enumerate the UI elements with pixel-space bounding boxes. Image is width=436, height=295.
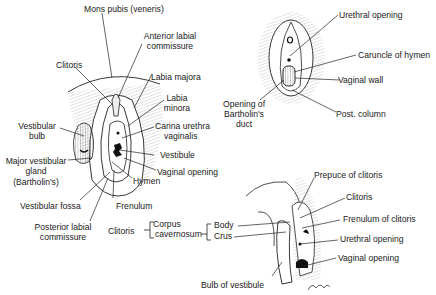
label-vestibular-bulb-2: bulb (14, 131, 60, 141)
label-urethral-opening-detail: Urethral opening (339, 10, 403, 20)
label-vaginal-wall: Vaginal wall (338, 75, 383, 85)
label-bartholin-duct-3: duct (222, 119, 266, 129)
clitoris-detail-illustration (246, 178, 321, 284)
label-clitoris: Clitoris (56, 60, 82, 70)
label-clitoris-detail: Clitoris (346, 192, 372, 202)
anatomy-diagram: Mons pubis (veneris) Anterior labial com… (0, 0, 436, 295)
label-urethral-opening-clitoris: Urethral opening (340, 234, 404, 244)
label-bulb-of-vestibule: Bulb of vestibule (201, 280, 264, 290)
legend-crus: Crus (214, 231, 232, 241)
artist-signature (308, 285, 330, 290)
label-bartholin-duct-2: Bartholin's (222, 109, 266, 119)
label-vaginal-opening-clitoris: Vaginal opening (338, 253, 399, 263)
vestibule-detail-illustration (257, 12, 325, 104)
label-major-gland-1: Major vestibular (2, 156, 70, 166)
label-post-column: Post. column (336, 109, 386, 119)
label-vaginal-opening: Vaginal opening (157, 167, 218, 177)
label-bartholin-duct-1: Opening of (222, 99, 266, 109)
label-anterior-commissure-1: Anterior labial (140, 31, 200, 41)
label-posterior-commissure-1: Posterior labial (30, 222, 96, 232)
label-posterior-commissure-2: commissure (30, 232, 96, 242)
label-prepuce-of-clitoris: Prepuce of clitoris (314, 170, 382, 180)
label-labia-minora-2: minora (160, 103, 194, 113)
label-caruncle-of-hymen: Caruncle of hymen (358, 50, 430, 60)
legend-body: Body (214, 220, 234, 230)
legend-corpus-1: Corpus (153, 219, 181, 229)
legend-clitoris: Clitoris (108, 226, 134, 236)
label-frenulum-of-clitoris: Frenulum of clitoris (343, 214, 416, 224)
label-vestibule: Vestibule (160, 150, 195, 160)
legend-corpus-2: cavernosum (155, 229, 202, 239)
label-carina-2: vaginalis (164, 131, 197, 141)
label-labia-majora: Labia majora (151, 72, 201, 82)
label-vestibular-bulb-1: Vestibular (14, 121, 60, 131)
label-hymen: Hymen (133, 176, 160, 186)
label-vestibular-fossa: Vestibular fossa (20, 201, 81, 211)
label-major-gland-2: gland (2, 166, 70, 176)
label-major-gland-3: (Bartholin's) (2, 177, 70, 187)
diagram-artwork (0, 0, 436, 295)
label-carina-1: Carina urethra (155, 121, 210, 131)
label-labia-minora-1: Labia (160, 93, 194, 103)
label-mons-pubis: Mons pubis (veneris) (84, 4, 164, 14)
label-frenulum: Frenulum (116, 201, 152, 211)
label-anterior-commissure-2: commissure (140, 41, 200, 51)
